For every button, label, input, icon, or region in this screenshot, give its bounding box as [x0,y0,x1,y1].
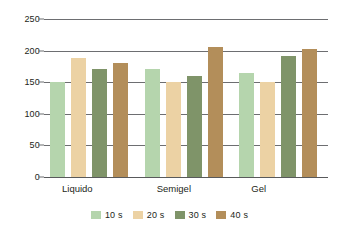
legend-swatch-icon [175,211,185,219]
bar-semigel-10s [145,69,160,177]
bar-gel-10s [239,73,254,177]
bar-semigel-20s [166,82,181,177]
bar-chart: LiquidoSemigelGel 10 s20 s30 s40 s 05010… [0,0,339,240]
legend-label: 40 s [230,210,248,220]
legend-item-30s[interactable]: 30 s [175,210,207,220]
x-label-gel: Gel [233,183,328,197]
legend-label: 30 s [189,210,207,220]
gridline-0 [44,177,328,178]
y-tick-label-200: 200 [6,46,40,56]
legend-item-10s[interactable]: 10 s [91,210,123,220]
bar-group-semigel [139,19,234,177]
bar-liquido-20s [71,58,86,177]
legend-swatch-icon [216,211,226,219]
legend-label: 10 s [105,210,123,220]
x-label-semigel: Semigel [139,183,234,197]
bar-group-gel [233,19,328,177]
y-tick-mark-100 [38,113,44,114]
y-tick-label-0: 0 [6,172,40,182]
y-tick-mark-250 [38,19,44,20]
chart-legend: 10 s20 s30 s40 s [0,210,339,220]
bar-gel-40s [302,49,317,177]
y-tick-label-150: 150 [6,77,40,87]
bar-group-bars [44,19,139,177]
bar-gel-30s [281,56,296,177]
legend-swatch-icon [133,211,143,219]
bar-groups [44,19,328,177]
y-tick-mark-200 [38,50,44,51]
legend-item-40s[interactable]: 40 s [216,210,248,220]
bar-semigel-40s [208,47,223,177]
bar-gel-20s [260,82,275,177]
bar-liquido-30s [92,69,107,177]
legend-item-20s[interactable]: 20 s [133,210,165,220]
x-label-liquido: Liquido [44,183,139,197]
bar-group-bars [139,19,234,177]
bar-group-liquido [44,19,139,177]
bar-group-bars [233,19,328,177]
x-axis-category-labels: LiquidoSemigelGel [44,183,328,197]
plot-area [44,19,328,177]
bar-liquido-10s [50,82,65,177]
y-tick-label-250: 250 [6,14,40,24]
y-tick-label-50: 50 [6,140,40,150]
y-tick-mark-50 [38,145,44,146]
bar-semigel-30s [187,76,202,177]
legend-swatch-icon [91,211,101,219]
y-tick-label-100: 100 [6,109,40,119]
y-tick-mark-150 [38,82,44,83]
y-tick-mark-0 [38,177,44,178]
bar-liquido-40s [113,63,128,177]
legend-label: 20 s [147,210,165,220]
